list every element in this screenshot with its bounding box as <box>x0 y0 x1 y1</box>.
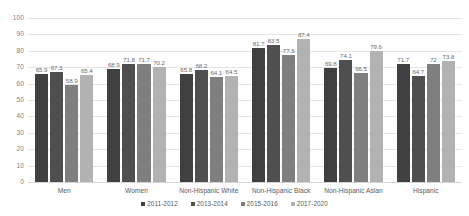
bar[interactable]: 73.8 <box>442 61 455 182</box>
bar-slot: 81.7 <box>252 18 265 182</box>
bar-value-label: 79.6 <box>370 43 382 50</box>
bar[interactable]: 77.5 <box>282 55 295 182</box>
bar-value-label: 72 <box>430 56 437 63</box>
bar-group: 69.874.166.579.6 <box>317 18 389 182</box>
bar-slot: 70.2 <box>153 18 166 182</box>
y-axis-tick-label: 30 <box>0 128 28 138</box>
bar-slot: 79.6 <box>370 18 383 182</box>
bar[interactable]: 66.5 <box>354 73 367 182</box>
bar-value-label: 73.8 <box>443 53 455 60</box>
bar-value-label: 66.5 <box>355 65 367 72</box>
bar-value-label: 65.8 <box>180 66 192 73</box>
legend-swatch-icon <box>191 202 195 206</box>
legend-item[interactable]: 2011-2012 <box>141 200 178 208</box>
bar-value-label: 64.1 <box>211 69 223 76</box>
legend-label: 2015-2016 <box>247 200 278 208</box>
bar[interactable]: 83.5 <box>267 45 280 182</box>
bar-slot: 66.5 <box>354 18 367 182</box>
y-axis-tick-label: 100 <box>0 13 28 23</box>
bar[interactable]: 64.7 <box>412 76 425 182</box>
bar-slot: 67.3 <box>50 18 63 182</box>
bar[interactable]: 72 <box>427 64 440 182</box>
y-axis-tick-label: 20 <box>0 144 28 154</box>
bar[interactable]: 68.9 <box>107 69 120 182</box>
bar-slot: 74.1 <box>339 18 352 182</box>
bar[interactable]: 87.4 <box>297 39 310 182</box>
bar[interactable]: 58.9 <box>65 85 78 182</box>
y-axis-tick-label: 40 <box>0 111 28 121</box>
bar[interactable]: 65.9 <box>35 74 48 182</box>
bar-slot: 83.5 <box>267 18 280 182</box>
bar[interactable]: 67.3 <box>50 72 63 182</box>
legend-swatch-icon <box>291 202 295 206</box>
bar[interactable]: 65.4 <box>80 75 93 182</box>
bar-value-label: 71.7 <box>397 56 409 63</box>
bar-value-label: 87.4 <box>298 31 310 38</box>
bar[interactable]: 64.5 <box>225 76 238 182</box>
bar-group: 65.967.358.965.4 <box>28 18 100 182</box>
y-axis-tick-label: 90 <box>0 29 28 39</box>
y-axis-tick-label: 60 <box>0 79 28 89</box>
bar-slot: 65.4 <box>80 18 93 182</box>
bar-slot: 58.9 <box>65 18 78 182</box>
bar-slot: 72 <box>427 18 440 182</box>
category-label: Non-Hispanic Black <box>245 186 317 195</box>
chart-legend: 2011-20122013-20142015-20162017-2020 <box>0 200 469 208</box>
y-axis-tick-label: 10 <box>0 161 28 171</box>
category-label: Hispanic <box>390 186 462 195</box>
legend-swatch-icon <box>141 202 145 206</box>
bar-value-label: 65.4 <box>81 67 93 74</box>
bar[interactable]: 68.2 <box>195 70 208 182</box>
bar[interactable]: 74.1 <box>339 60 352 182</box>
legend-item[interactable]: 2013-2014 <box>191 200 228 208</box>
bar[interactable]: 71.7 <box>397 64 410 182</box>
bar-slot: 71.8 <box>122 18 135 182</box>
y-axis-tick-label: 50 <box>0 95 28 105</box>
bar[interactable]: 79.6 <box>370 51 383 182</box>
bar[interactable]: 81.7 <box>252 48 265 182</box>
y-axis-tick-label: 0 <box>0 177 28 187</box>
bar-slot: 69.8 <box>324 18 337 182</box>
bar-slot: 64.1 <box>210 18 223 182</box>
bar[interactable]: 71.7 <box>137 64 150 182</box>
legend-swatch-icon <box>241 202 245 206</box>
bar-value-label: 77.5 <box>283 47 295 54</box>
bar-value-label: 71.8 <box>123 56 135 63</box>
bar-slot: 68.9 <box>107 18 120 182</box>
bar-group: 81.783.577.587.4 <box>245 18 317 182</box>
bar-slot: 64.7 <box>412 18 425 182</box>
bar-slot: 77.5 <box>282 18 295 182</box>
bar-value-label: 70.2 <box>153 59 165 66</box>
bar[interactable]: 69.8 <box>324 68 337 182</box>
category-label: Women <box>100 186 172 195</box>
bar[interactable]: 71.8 <box>122 64 135 182</box>
category-label: Men <box>28 186 100 195</box>
y-axis-tick-label: 80 <box>0 46 28 56</box>
bar-value-label: 58.9 <box>66 77 78 84</box>
y-axis-tick-label: 70 <box>0 62 28 72</box>
bar-value-label: 83.5 <box>268 37 280 44</box>
bar-slot: 65.8 <box>180 18 193 182</box>
gridline <box>28 182 462 183</box>
bar-value-label: 71.7 <box>138 56 150 63</box>
category-label: Non-Hispanic White <box>173 186 245 195</box>
bar[interactable]: 65.8 <box>180 74 193 182</box>
legend-label: 2017-2020 <box>297 200 328 208</box>
grouped-bar-chart: 0102030405060708090100 65.967.358.965.46… <box>0 0 469 216</box>
bar-group: 65.868.264.164.5 <box>173 18 245 182</box>
bar[interactable]: 64.1 <box>210 77 223 182</box>
bar[interactable]: 70.2 <box>153 67 166 182</box>
bar-slot: 71.7 <box>137 18 150 182</box>
bar-slot: 87.4 <box>297 18 310 182</box>
legend-label: 2011-2012 <box>147 200 178 208</box>
legend-label: 2013-2014 <box>197 200 228 208</box>
bar-slot: 73.8 <box>442 18 455 182</box>
legend-item[interactable]: 2017-2020 <box>291 200 328 208</box>
legend-item[interactable]: 2015-2016 <box>241 200 278 208</box>
bar-value-label: 68.2 <box>195 62 207 69</box>
bar-slot: 71.7 <box>397 18 410 182</box>
bar-slot: 65.9 <box>35 18 48 182</box>
bar-slot: 68.2 <box>195 18 208 182</box>
bar-groups: 65.967.358.965.468.971.871.770.265.868.2… <box>28 18 462 182</box>
category-axis-labels: MenWomenNon-Hispanic WhiteNon-Hispanic B… <box>28 186 462 195</box>
